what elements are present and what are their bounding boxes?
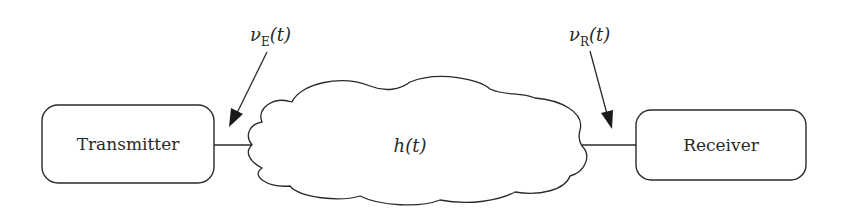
vR-arrow-shaft (590, 51, 607, 114)
transmitter-label: Transmitter (77, 134, 181, 154)
vE-label: νE(t) (250, 24, 291, 49)
annotation-vE: νE(t) (229, 24, 291, 127)
transmitter-node: Transmitter (42, 105, 214, 183)
channel-node: h(t) (248, 76, 586, 204)
vR-arrow-head-icon (601, 110, 613, 129)
channel-label: h(t) (394, 135, 427, 156)
diagram-canvas: Transmitter h(t) Receiver νE(t) νR(t) (0, 0, 846, 212)
vE-arrow-head-icon (229, 108, 243, 127)
vR-label: νR(t) (569, 24, 610, 49)
receiver-node: Receiver (636, 110, 806, 180)
receiver-label: Receiver (683, 135, 760, 155)
vE-arrow-shaft (237, 52, 267, 113)
